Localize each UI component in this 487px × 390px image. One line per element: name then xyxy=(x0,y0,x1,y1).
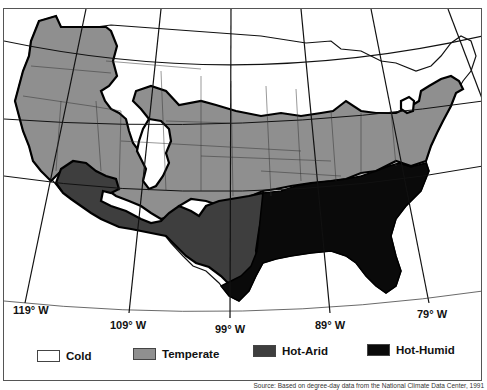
legend-swatch-cold xyxy=(37,350,60,362)
legend-label-temperate: Temperate xyxy=(162,348,219,360)
legend: Cold Temperate Hot-Arid Hot-Humid xyxy=(0,344,487,374)
legend-swatch-hot-arid xyxy=(253,345,276,357)
longitude-label-109w: 109° W xyxy=(110,319,146,331)
legend-item-hot-humid: Hot-Humid xyxy=(367,344,455,356)
map-frame: 119° W 109° W 99° W 89° W 79° W xyxy=(3,8,482,381)
legend-item-hot-arid: Hot-Arid xyxy=(253,345,328,357)
longitude-label-99w: 99° W xyxy=(215,323,245,335)
longitude-label-79w: 79° W xyxy=(417,308,447,320)
source-caption: Source: Based on degree-day data from th… xyxy=(253,382,484,389)
legend-label-hot-humid: Hot-Humid xyxy=(396,344,455,356)
legend-swatch-hot-humid xyxy=(367,344,390,356)
legend-swatch-temperate xyxy=(133,348,156,360)
legend-item-cold: Cold xyxy=(37,350,92,362)
legend-item-temperate: Temperate xyxy=(133,348,219,360)
legend-label-cold: Cold xyxy=(66,350,92,362)
longitude-label-89w: 89° W xyxy=(315,319,345,331)
legend-label-hot-arid: Hot-Arid xyxy=(282,345,328,357)
longitude-label-119w: 119° W xyxy=(13,304,49,316)
